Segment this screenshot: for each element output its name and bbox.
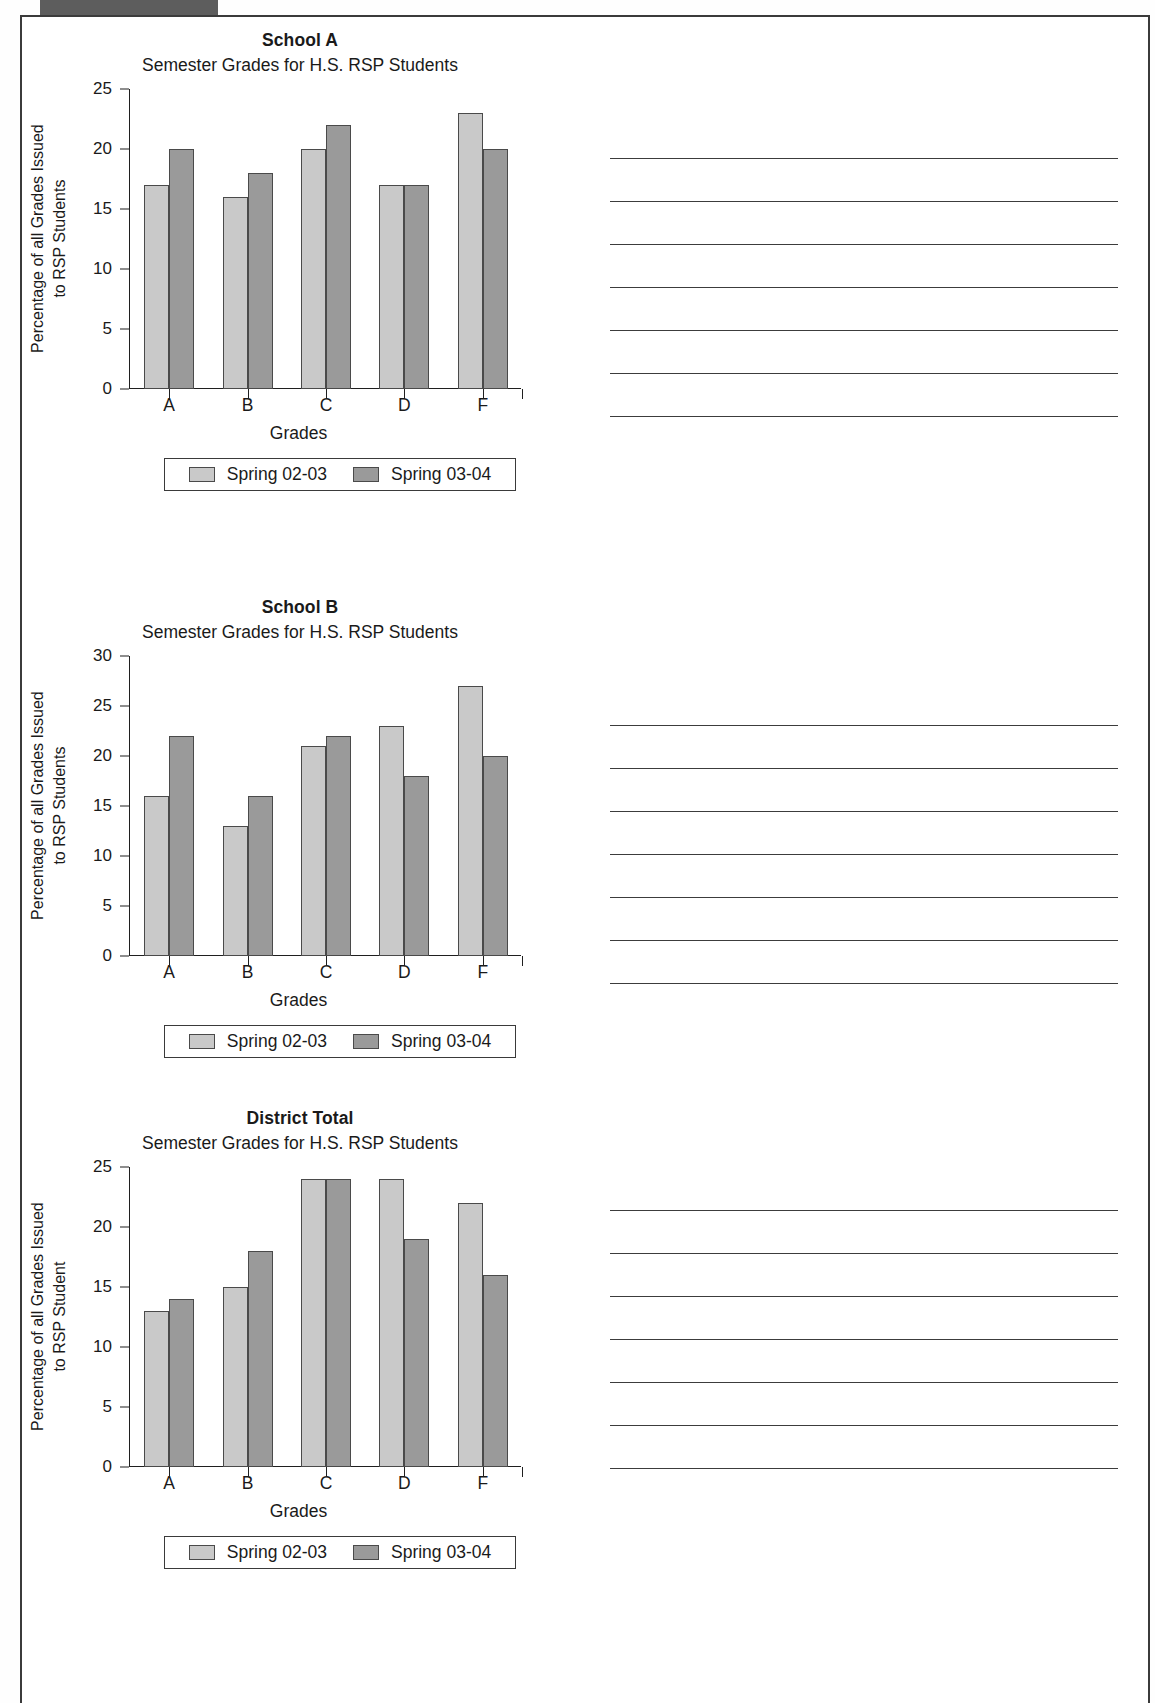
bar-group-F xyxy=(458,1167,508,1467)
rule-line xyxy=(610,416,1118,417)
y-tick-mark xyxy=(120,208,129,209)
chart-title: School A xyxy=(20,30,580,52)
plot-area: Percentage of all Grades Issuedto RSP St… xyxy=(20,656,580,956)
bar-B-series2 xyxy=(248,1251,273,1467)
y-tick-labels: 051015202530 xyxy=(76,656,118,956)
y-tick-label: 0 xyxy=(103,379,112,399)
bar-group-B xyxy=(223,1167,273,1467)
bar-B-series2 xyxy=(248,173,273,389)
legend-label: Spring 03-04 xyxy=(391,1542,491,1563)
y-tick-mark xyxy=(120,905,129,906)
x-axis-label: Grades xyxy=(76,1501,521,1522)
y-tick-label: 25 xyxy=(93,696,112,716)
bar-B-series1 xyxy=(223,826,248,956)
chart-legend: Spring 02-03Spring 03-04 xyxy=(164,458,516,491)
axis-area: 0510152025ABCDF xyxy=(76,89,580,389)
x-tick-mark xyxy=(404,1467,405,1477)
x-tick-mark xyxy=(169,956,170,966)
legend-item-series1[interactable]: Spring 02-03 xyxy=(189,464,327,485)
y-tick-label: 15 xyxy=(93,199,112,219)
x-tick-mark xyxy=(483,1467,484,1477)
x-axis-label: Grades xyxy=(76,990,521,1011)
bar-A-series1 xyxy=(144,796,169,956)
legend-swatch-icon-series2 xyxy=(353,1034,379,1049)
x-tick-mark xyxy=(169,389,170,399)
y-tick-label: 0 xyxy=(103,1457,112,1477)
legend-swatch-icon-series2 xyxy=(353,1545,379,1560)
y-axis-label: Percentage of all Grades Issuedto RSP St… xyxy=(20,1167,76,1467)
y-tick-label: 15 xyxy=(93,796,112,816)
chart-subtitle: Semester Grades for H.S. RSP Students xyxy=(20,621,580,644)
y-tick-label: 10 xyxy=(93,1337,112,1357)
y-axis-label: Percentage of all Grades Issuedto RSP St… xyxy=(20,89,76,389)
x-axis-label: Grades xyxy=(76,423,521,444)
bar-group-D xyxy=(379,1167,429,1467)
rule-line xyxy=(610,768,1118,769)
y-tick-label: 25 xyxy=(93,79,112,99)
y-tick-mark xyxy=(120,1406,129,1407)
y-tick-mark xyxy=(120,268,129,269)
bar-groups xyxy=(130,1167,522,1467)
y-tick-mark xyxy=(120,755,129,756)
x-tick-mark xyxy=(522,1467,523,1477)
legend-swatch-icon-series1 xyxy=(189,1034,215,1049)
y-tick-mark xyxy=(120,388,129,389)
legend-item-series2[interactable]: Spring 03-04 xyxy=(353,1542,491,1563)
chart-subtitle: Semester Grades for H.S. RSP Students xyxy=(20,1132,580,1155)
bar-C-series2 xyxy=(326,125,351,389)
y-tick-label: 25 xyxy=(93,1157,112,1177)
bar-group-D xyxy=(379,89,429,389)
y-tick-mark xyxy=(120,655,129,656)
rule-line xyxy=(610,940,1118,941)
legend-swatch-icon-series1 xyxy=(189,467,215,482)
bar-D-series1 xyxy=(379,726,404,956)
x-tick-mark xyxy=(404,956,405,966)
x-tick-mark xyxy=(522,956,523,966)
y-tick-mark xyxy=(120,1226,129,1227)
axis-area: 0510152025ABCDF xyxy=(76,1167,580,1467)
bar-C-series2 xyxy=(326,1179,351,1467)
bar-F-series2 xyxy=(483,756,508,956)
y-tick-labels: 0510152025 xyxy=(76,89,118,389)
bar-F-series2 xyxy=(483,1275,508,1467)
x-tick-mark xyxy=(404,389,405,399)
bar-group-A xyxy=(144,656,194,956)
bar-A-series2 xyxy=(169,736,194,956)
legend-item-series1[interactable]: Spring 02-03 xyxy=(189,1031,327,1052)
legend-item-series1[interactable]: Spring 02-03 xyxy=(189,1542,327,1563)
y-tick-label: 20 xyxy=(93,1217,112,1237)
x-tick-mark xyxy=(522,389,523,399)
bar-B-series1 xyxy=(223,197,248,389)
bar-B-series1 xyxy=(223,1287,248,1467)
x-tick-mark xyxy=(169,1467,170,1477)
legend-item-series2[interactable]: Spring 03-04 xyxy=(353,1031,491,1052)
y-tick-label: 20 xyxy=(93,746,112,766)
y-tick-mark xyxy=(120,705,129,706)
bar-D-series2 xyxy=(404,776,429,956)
rule-line xyxy=(610,1296,1118,1297)
bar-A-series1 xyxy=(144,185,169,389)
rule-line xyxy=(610,1468,1118,1469)
legend-item-series2[interactable]: Spring 03-04 xyxy=(353,464,491,485)
plot-area: Percentage of all Grades Issuedto RSP St… xyxy=(20,89,580,389)
bar-groups xyxy=(130,89,522,389)
bar-group-B xyxy=(223,656,273,956)
chart-block-1: School ASemester Grades for H.S. RSP Stu… xyxy=(20,30,580,389)
y-tick-mark xyxy=(120,88,129,89)
rule-line xyxy=(610,158,1118,159)
y-tick-mark xyxy=(120,855,129,856)
rule-line xyxy=(610,811,1118,812)
chart-title: District Total xyxy=(20,1108,580,1130)
bar-F-series1 xyxy=(458,113,483,389)
bar-A-series1 xyxy=(144,1311,169,1467)
y-tick-label: 5 xyxy=(103,896,112,916)
y-tick-mark xyxy=(120,1346,129,1347)
bar-group-A xyxy=(144,1167,194,1467)
y-tick-mark xyxy=(120,805,129,806)
y-tick-mark xyxy=(120,1286,129,1287)
y-tick-label: 15 xyxy=(93,1277,112,1297)
y-tick-mark xyxy=(120,1466,129,1467)
x-tick-mark xyxy=(248,389,249,399)
bar-F-series1 xyxy=(458,1203,483,1467)
y-tick-label: 0 xyxy=(103,946,112,966)
